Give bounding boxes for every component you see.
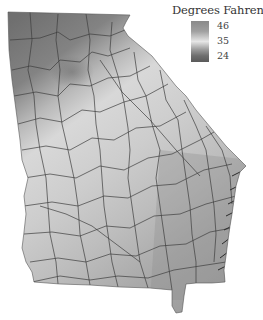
legend-tick-24: 24 [217, 50, 229, 61]
legend-tick-35: 35 [217, 35, 229, 46]
legend-color-bar [191, 21, 209, 62]
legend: Degrees Fahrenheit 46 35 24 [168, 2, 263, 68]
legend-title: Degrees Fahrenheit [172, 3, 263, 17]
legend-tick-46: 46 [217, 20, 229, 31]
